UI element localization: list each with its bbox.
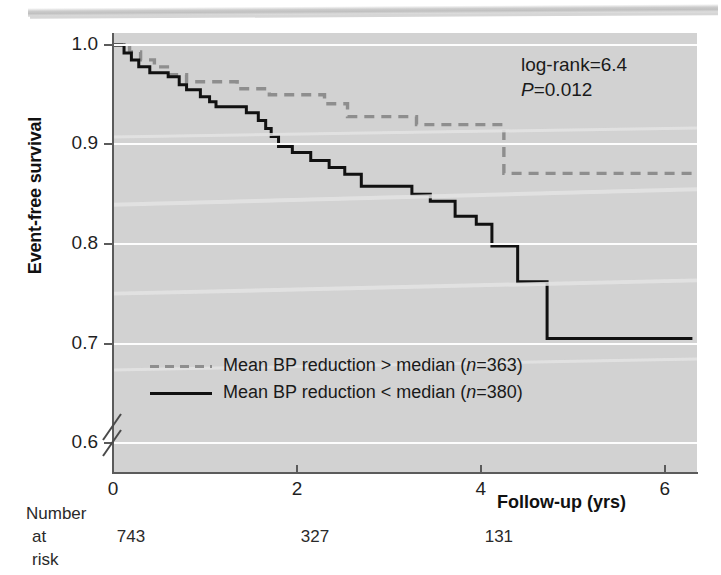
x-axis-title: Follow-up (yrs) xyxy=(497,492,626,513)
y-axis-break-icon xyxy=(100,412,126,458)
gridline-y-0.8 xyxy=(113,243,697,245)
plot-area: log-rank=6.4 P=0.012 Mean BP reduction >… xyxy=(113,33,697,473)
y-tick-0.8 xyxy=(104,243,113,245)
legend-solid-line-icon xyxy=(150,387,212,399)
gridline-y-0.9 xyxy=(113,143,697,145)
y-tick-0.9 xyxy=(104,143,113,145)
p-value-number: =0.012 xyxy=(534,79,593,100)
x-tick-0 xyxy=(112,465,114,473)
y-tick-0.7 xyxy=(104,343,113,345)
y-tick-1 xyxy=(104,44,113,46)
legend-item-above-median: Mean BP reduction > median (n=363) xyxy=(150,352,523,379)
risk-value-year-4: 131 xyxy=(464,525,534,548)
statistics-annotation: log-rank=6.4 P=0.012 xyxy=(521,52,627,102)
risk-caption-line2: at risk xyxy=(32,525,58,571)
legend: Mean BP reduction > median (n=363) Mean … xyxy=(150,352,523,406)
p-value-text: P=0.012 xyxy=(521,77,627,102)
x-axis-line xyxy=(112,472,698,474)
x-tick-4 xyxy=(480,465,482,473)
y-tick-label-1: 1.0 xyxy=(42,33,98,55)
kaplan-meier-figure: log-rank=6.4 P=0.012 Mean BP reduction >… xyxy=(0,0,721,575)
x-tick-label-6: 6 xyxy=(645,478,685,500)
y-tick-label-0.7: 0.7 xyxy=(42,332,98,354)
x-tick-label-4: 4 xyxy=(461,478,501,500)
y-axis-line xyxy=(112,33,114,473)
x-tick-label-0: 0 xyxy=(93,478,133,500)
p-symbol: P xyxy=(521,79,534,100)
risk-value-year-2: 327 xyxy=(280,525,350,548)
y-tick-label-0.8: 0.8 xyxy=(42,232,98,254)
gridline-y-0.6 xyxy=(113,442,697,444)
y-tick-label-0.6: 0.6 xyxy=(42,431,98,453)
gridline-y-0.7 xyxy=(113,343,697,345)
x-tick-label-2: 2 xyxy=(277,478,317,500)
legend-label-above-median: Mean BP reduction > median (n=363) xyxy=(223,352,523,379)
x-tick-2 xyxy=(296,465,298,473)
x-tick-6 xyxy=(664,465,666,473)
risk-value-year-0: 743 xyxy=(96,525,166,548)
legend-dashed-line-icon xyxy=(150,360,212,372)
legend-item-below-median: Mean BP reduction < median (n=380) xyxy=(150,379,523,406)
risk-caption-line1: Number xyxy=(26,502,86,525)
log-rank-text: log-rank=6.4 xyxy=(521,52,627,77)
gridline-y-1 xyxy=(113,44,697,46)
y-axis-title: Event-free survival xyxy=(25,91,46,301)
legend-label-below-median: Mean BP reduction < median (n=380) xyxy=(223,379,523,406)
y-tick-label-0.9: 0.9 xyxy=(42,132,98,154)
